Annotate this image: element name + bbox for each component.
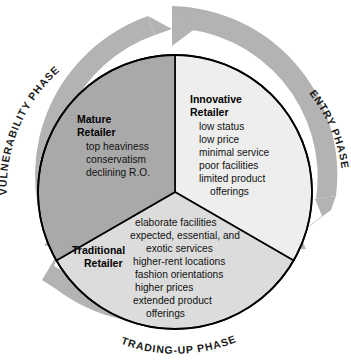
wheel-graphic: VULNERABILITY PHASE ENTRY PHASE TRADING-…: [0, 0, 351, 361]
segment-traditional-item-1: expected, essential, and: [130, 230, 240, 241]
segment-innovative-item-0: low status: [199, 121, 244, 132]
segment-mature-item-0: top heaviness: [86, 141, 149, 152]
segment-innovative-item-2: minimal service: [199, 147, 270, 158]
segment-innovative-item-4: limited product: [199, 173, 265, 184]
segment-traditional-title-line2: Retailer: [84, 257, 123, 269]
segment-traditional-item-5: higher prices: [135, 282, 193, 293]
segment-mature-title-line2: Retailer: [77, 126, 116, 138]
segment-innovative-title-line2: Retailer: [190, 106, 229, 118]
segment-mature-title-line1: Mature: [77, 113, 112, 125]
segment-mature-item-1: conservatism: [86, 154, 146, 165]
segment-mature-item-2: declining R.O.: [86, 167, 150, 178]
segment-innovative-item-1: low price: [199, 134, 240, 145]
segment-traditional-item-2: exotic services: [146, 243, 213, 254]
segment-traditional-item-4: fashion orientations: [135, 269, 223, 280]
segment-innovative-item-5: offerings: [210, 186, 249, 197]
retail-wheel-diagram: VULNERABILITY PHASE ENTRY PHASE TRADING-…: [0, 0, 351, 361]
segment-traditional-item-0: elaborate facilities: [135, 217, 217, 228]
segment-traditional-item-7: offerings: [146, 308, 185, 319]
segment-innovative-item-3: poor facilities: [199, 160, 258, 171]
segment-traditional-item-6: extended product: [133, 295, 212, 306]
segment-traditional-title-line1: Traditional: [72, 244, 125, 256]
segment-traditional-item-3: higher-rent locations: [133, 256, 225, 267]
phase-label-trading-up: TRADING-UP PHASE: [120, 332, 238, 356]
segment-innovative-title-line1: Innovative: [190, 93, 242, 105]
